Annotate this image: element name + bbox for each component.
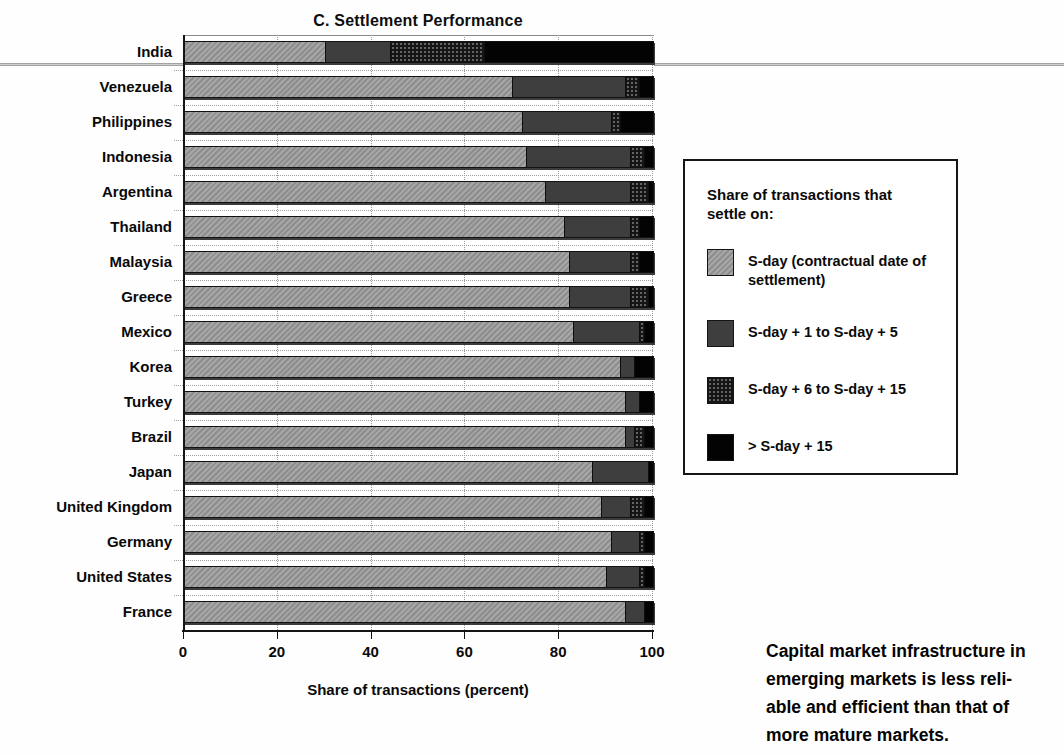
y-axis-line (183, 35, 185, 632)
legend-item-s-day-1-to-s-day-5: S-day + 1 to S-day + 5 (707, 320, 938, 347)
category-label: India (0, 43, 172, 61)
bar-segment-s-day-6-to-s-day-15 (625, 77, 639, 97)
bar-segment-s-day-contractual-date-of-settlement (184, 462, 592, 482)
legend-item-s-day-contractual-date-of-settlement: S-day (contractual date of settlement) (707, 249, 938, 290)
category-label: United States (0, 568, 172, 586)
bar-segment-s-day-15 (648, 287, 653, 307)
category-label: Argentina (0, 183, 172, 201)
bar-segment-s-day-6-to-s-day-15 (630, 252, 639, 272)
bar-segment-s-day-1-to-s-day-5 (564, 217, 630, 237)
x-tick-mark-0 (183, 632, 184, 639)
bar-segment-s-day-15 (634, 357, 653, 377)
row-separator (174, 525, 653, 526)
bar-segment-s-day-15 (648, 182, 653, 202)
bar-segment-s-day-contractual-date-of-settlement (184, 252, 569, 272)
bar-segment-s-day-1-to-s-day-5 (526, 147, 629, 167)
category-label: Mexico (0, 323, 172, 341)
category-label: United Kingdom (0, 498, 172, 516)
category-label: Germany (0, 533, 172, 551)
bar-segment-s-day-15 (644, 567, 653, 587)
legend-label: S-day + 1 to S-day + 5 (748, 320, 898, 342)
bar-segment-s-day-15 (639, 392, 653, 412)
bar-segment-s-day-15 (644, 147, 653, 167)
bar-segment-s-day-6-to-s-day-15 (630, 497, 644, 517)
bar-row (183, 531, 654, 553)
bar-segment-s-day-contractual-date-of-settlement (184, 77, 512, 97)
bar-row (183, 601, 654, 623)
category-label: France (0, 603, 172, 621)
bar-segment-s-day-6-to-s-day-15 (611, 112, 620, 132)
bar-segment-s-day-15 (644, 532, 653, 552)
bar-segment-s-day-15 (639, 217, 653, 237)
legend-header: Share of transactions that settle on: (707, 185, 938, 223)
category-label: Venezuela (0, 78, 172, 96)
legend-swatch-s-day-1-to-s-day-5 (707, 320, 734, 347)
bar-segment-s-day-1-to-s-day-5 (625, 427, 634, 447)
x-tick-label-20: 20 (255, 643, 299, 660)
bar-segment-s-day-contractual-date-of-settlement (184, 182, 545, 202)
legend-swatch-s-day-15 (707, 434, 734, 461)
x-axis-title: Share of transactions (percent) (183, 681, 653, 698)
bar-row (183, 41, 654, 63)
legend-label: > S-day + 15 (748, 434, 833, 456)
row-separator (174, 560, 653, 561)
bar-segment-s-day-1-to-s-day-5 (611, 532, 639, 552)
row-separator (174, 70, 653, 71)
x-tick-label-100: 100 (630, 643, 674, 660)
category-label: Brazil (0, 428, 172, 446)
bar-segment-s-day-1-to-s-day-5 (601, 497, 629, 517)
bar-segment-s-day-15 (648, 462, 653, 482)
bar-segment-s-day-contractual-date-of-settlement (184, 112, 522, 132)
bar-row (183, 76, 654, 98)
x-tick-mark-100 (652, 632, 653, 639)
bar-segment-s-day-contractual-date-of-settlement (184, 42, 325, 62)
bar-segment-s-day-1-to-s-day-5 (512, 77, 625, 97)
x-tick-mark-40 (371, 632, 372, 639)
x-tick-label-80: 80 (536, 643, 580, 660)
row-separator (174, 140, 653, 141)
bar-segment-s-day-1-to-s-day-5 (625, 602, 644, 622)
row-separator (174, 455, 653, 456)
x-axis-line (182, 630, 654, 632)
bar-segment-s-day-15 (644, 427, 653, 447)
bar-segment-s-day-6-to-s-day-15 (630, 147, 644, 167)
legend-label: S-day (contractual date of settlement) (748, 249, 938, 290)
bar-row (183, 426, 654, 448)
bar-segment-s-day-1-to-s-day-5 (592, 462, 648, 482)
category-label: Greece (0, 288, 172, 306)
legend-item-s-day-6-to-s-day-15: S-day + 6 to S-day + 15 (707, 377, 938, 404)
bar-row (183, 391, 654, 413)
row-separator (174, 420, 653, 421)
category-label: Korea (0, 358, 172, 376)
bar-segment-s-day-15 (620, 112, 653, 132)
bar-segment-s-day-contractual-date-of-settlement (184, 602, 625, 622)
bar-row (183, 496, 654, 518)
bar-segment-s-day-6-to-s-day-15 (634, 427, 643, 447)
row-separator (174, 280, 653, 281)
x-tick-label-0: 0 (161, 643, 205, 660)
category-label: Indonesia (0, 148, 172, 166)
bar-segment-s-day-1-to-s-day-5 (325, 42, 391, 62)
row-separator (174, 315, 653, 316)
bar-row (183, 181, 654, 203)
bar-segment-s-day-1-to-s-day-5 (573, 322, 639, 342)
category-label: Turkey (0, 393, 172, 411)
row-separator (174, 105, 653, 106)
row-separator (174, 175, 653, 176)
bar-segment-s-day-1-to-s-day-5 (620, 357, 634, 377)
bar-segment-s-day-6-to-s-day-15 (630, 182, 649, 202)
x-tick-mark-20 (277, 632, 278, 639)
bar-row (183, 111, 654, 133)
bar-row (183, 566, 654, 588)
bar-row (183, 356, 654, 378)
x-tick-mark-80 (558, 632, 559, 639)
legend-swatch-s-day-6-to-s-day-15 (707, 377, 734, 404)
bar-segment-s-day-1-to-s-day-5 (545, 182, 629, 202)
page: C. Settlement Performance IndiaVenezuela… (0, 0, 1064, 755)
bar-segment-s-day-1-to-s-day-5 (569, 252, 630, 272)
bar-row (183, 321, 654, 343)
bar-segment-s-day-contractual-date-of-settlement (184, 567, 606, 587)
chart-title: C. Settlement Performance (183, 12, 653, 30)
bar-segment-s-day-contractual-date-of-settlement (184, 357, 620, 377)
row-separator (174, 210, 653, 211)
